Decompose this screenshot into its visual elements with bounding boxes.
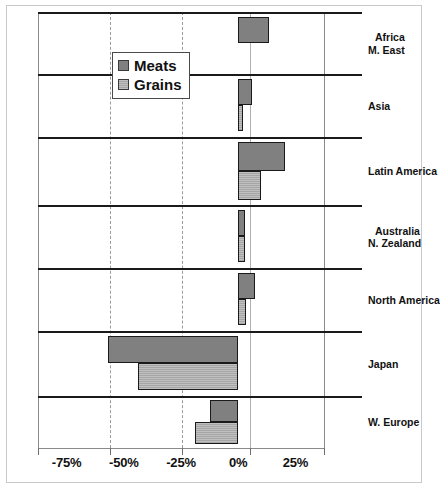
bar-grains-w-europe: [195, 422, 238, 444]
chart-legend: Meats Grains: [112, 52, 190, 99]
bar-grains-australia-n-zealand: [238, 236, 245, 262]
category-label-line1: Latin America: [368, 165, 437, 177]
bar-grains-japan: [138, 363, 239, 390]
category-label-line1: W. Europe: [368, 416, 419, 428]
plot-area: Meats Grains: [38, 12, 324, 448]
bar-meats-japan: [108, 336, 238, 363]
x-tick-label-0: 0%: [229, 455, 247, 470]
category-label-latin-america: Latin America: [368, 165, 437, 178]
category-label-africa: AfricaM. East: [368, 31, 405, 56]
tick-minus75: [38, 448, 39, 455]
row-separator: [38, 205, 362, 207]
bar-grains-asia: [238, 105, 243, 131]
category-label-asia: Asia: [368, 100, 390, 113]
legend-item-grains[interactable]: Grains: [118, 75, 182, 94]
row-separator: [38, 331, 362, 333]
category-label-w-europe: W. Europe: [368, 416, 419, 429]
category-label-line2: M. East: [368, 44, 405, 57]
bar-meats-latin-america: [238, 142, 285, 171]
row-separator: [38, 396, 362, 398]
row-separator: [38, 268, 362, 270]
category-label-line1: North America: [368, 294, 440, 306]
x-tick-label-25: 25%: [283, 455, 308, 470]
bar-meats-north-america: [238, 273, 255, 299]
tick-plus25: [324, 448, 325, 455]
x-tick-label-25: -25%: [166, 455, 196, 470]
category-label-line1: Asia: [368, 100, 390, 112]
gridline-minus50: [110, 12, 111, 448]
bar-grains-latin-america: [238, 171, 261, 200]
tick-minus25: [182, 448, 183, 455]
category-label-line1: Australia: [368, 225, 420, 237]
legend-swatch-grains-icon: [118, 79, 129, 90]
bar-meats-australia-n-zealand: [238, 210, 245, 236]
legend-label-grains: Grains: [134, 77, 182, 92]
category-label-australia: AustraliaN. Zealand: [368, 225, 421, 250]
tick-minus50: [110, 448, 111, 455]
legend-item-meats[interactable]: Meats: [118, 56, 182, 75]
bar-meats-w-europe: [210, 400, 239, 422]
legend-label-meats: Meats: [134, 58, 177, 73]
bar-meats-africa-m-east: [238, 17, 269, 43]
category-label-line1: Japan: [368, 358, 398, 370]
category-label-line2: N. Zealand: [368, 237, 421, 250]
bar-meats-asia: [238, 79, 252, 105]
gridline-zero: [250, 12, 251, 448]
x-tick-label-50: -50%: [109, 455, 139, 470]
row-separator: [38, 74, 362, 76]
row-separator: [38, 137, 362, 139]
category-label-line1: Africa: [368, 31, 405, 43]
axis-left-spine: [38, 12, 39, 448]
bar-grains-north-america: [238, 299, 246, 325]
category-label-north-america: North America: [368, 294, 440, 307]
row-separator: [38, 12, 362, 14]
axis-right-spine: [324, 12, 325, 448]
tick-zero: [250, 448, 251, 455]
x-tick-label-75: -75%: [52, 455, 82, 470]
legend-swatch-meats-icon: [118, 60, 129, 71]
category-label-japan: Japan: [368, 358, 398, 371]
